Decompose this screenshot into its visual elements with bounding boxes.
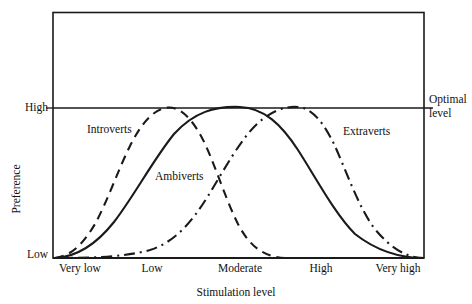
optimal-level-line-2: level [429, 107, 472, 121]
curve-label-extraverts: Extraverts [343, 125, 390, 137]
x-tick-label-very-high: Very high [358, 262, 438, 274]
x-axis-title: Stimulation level [0, 286, 472, 298]
optimal-level-annotation: Optimal level [429, 93, 472, 120]
chart-plot-area [0, 0, 472, 304]
x-tick-label-low: Low [112, 262, 192, 274]
curve-label-introverts: Introverts [87, 123, 132, 135]
optimal-level-line-1: Optimal [429, 93, 472, 107]
y-axis-title: Preference [10, 149, 22, 229]
y-tick-label-low: Low [18, 248, 48, 260]
y-tick-label-high: High [18, 101, 48, 113]
x-tick-label-moderate: Moderate [200, 262, 280, 274]
x-tick-label-high: High [281, 262, 361, 274]
curve-label-ambiverts: Ambiverts [155, 170, 204, 182]
x-tick-label-very-low: Very low [40, 262, 120, 274]
chart-figure: High Low Preference Very low Low Moderat… [0, 0, 472, 304]
